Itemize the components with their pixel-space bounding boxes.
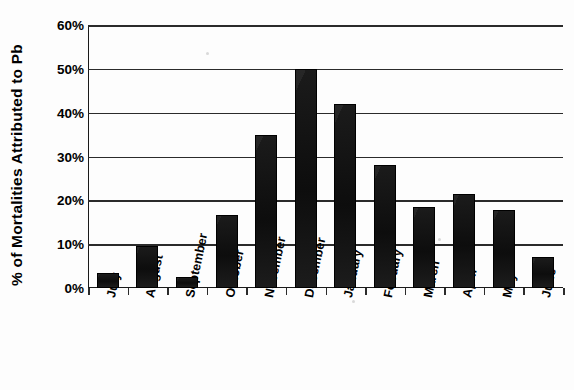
x-axis-ticks — [88, 288, 563, 295]
y-tick-label: 0% — [38, 281, 84, 296]
x-tick-label: June — [539, 296, 569, 384]
bar-slot — [325, 25, 365, 288]
bar-slot — [286, 25, 326, 288]
y-axis-title: % of Mortalities Attributed to Pb — [0, 0, 34, 330]
bar-slot — [246, 25, 286, 288]
y-axis-title-text: % of Mortalities Attributed to Pb — [8, 44, 26, 286]
x-tick-label: April — [460, 296, 489, 384]
x-tick — [128, 288, 130, 295]
x-tick-label: May — [500, 296, 525, 384]
bar — [136, 246, 158, 288]
x-tick — [286, 288, 288, 295]
bar — [413, 207, 435, 288]
x-tick — [88, 288, 90, 295]
bar — [295, 69, 317, 288]
bar — [216, 215, 238, 288]
bar — [532, 257, 554, 288]
bar — [493, 210, 515, 288]
x-tick — [246, 288, 248, 295]
plot-area — [88, 25, 563, 288]
x-tick — [444, 288, 446, 295]
x-tick — [365, 288, 367, 295]
scan-speck — [352, 300, 355, 303]
bar-series — [88, 25, 563, 288]
bar — [334, 104, 356, 288]
x-tick-label: July — [104, 296, 129, 384]
y-tick-label: 60% — [38, 18, 84, 33]
bar-slot — [207, 25, 247, 288]
bar-slot — [88, 25, 128, 288]
bar-slot — [444, 25, 484, 288]
x-axis-tick-labels: JulyAugustSeptemberOctoberNovemberDecemb… — [88, 296, 563, 386]
x-tick — [484, 288, 486, 295]
bar-chart-figure: % of Mortalities Attributed to Pb 0%10%2… — [0, 0, 574, 390]
x-tick — [167, 288, 169, 295]
y-tick-label: 40% — [38, 105, 84, 120]
bar-slot — [128, 25, 168, 288]
bar-slot — [523, 25, 563, 288]
x-tick-label: March — [421, 296, 458, 384]
y-tick-label: 30% — [38, 149, 84, 164]
bar-slot — [167, 25, 207, 288]
bar — [97, 273, 119, 288]
y-tick-label: 20% — [38, 193, 84, 208]
bar — [453, 194, 475, 288]
bar-slot — [365, 25, 405, 288]
bar — [374, 165, 396, 288]
x-tick — [563, 288, 565, 295]
x-tick-label: August — [143, 296, 187, 384]
y-tick-label: 10% — [38, 237, 84, 252]
x-tick — [523, 288, 525, 295]
x-tick — [405, 288, 407, 295]
x-tick — [326, 288, 328, 295]
bar-slot — [405, 25, 445, 288]
y-axis-tick-labels: 0%10%20%30%40%50%60% — [38, 0, 84, 390]
x-tick — [207, 288, 209, 295]
bar — [176, 277, 198, 288]
bar — [255, 135, 277, 288]
bar-slot — [484, 25, 524, 288]
y-tick-label: 50% — [38, 61, 84, 76]
